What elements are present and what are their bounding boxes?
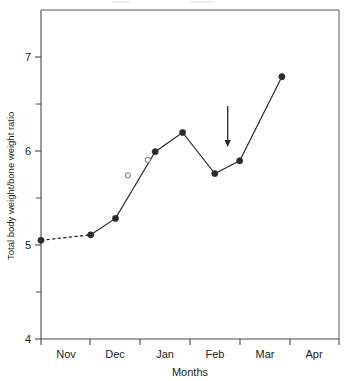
plot-frame [41, 10, 339, 339]
x-tick-label-apr: Apr [305, 348, 322, 360]
data-point [88, 232, 94, 238]
y-axis-title: Total body weight/bone weight ratio [5, 112, 16, 260]
y-tick-label-7: 7 [25, 51, 31, 63]
x-axis-title: Months [172, 366, 209, 378]
down-arrow-icon [225, 106, 231, 147]
data-point [112, 215, 118, 221]
y-tick-label-6: 6 [25, 145, 31, 157]
chart-figure: 7 6 5 4 Nov Dec Jan Feb Mar Apr Months T… [0, 0, 352, 381]
x-tick-label-mar: Mar [256, 348, 275, 360]
data-point [180, 129, 186, 135]
series-segment-dashed [41, 235, 91, 241]
y-tick-label-4: 4 [25, 333, 31, 345]
x-tick-label-nov: Nov [56, 348, 76, 360]
data-point [279, 74, 285, 80]
series-segment-solid [91, 77, 282, 235]
y-tick-label-5: 5 [25, 239, 31, 251]
data-point [212, 171, 218, 177]
x-axis-ticks [41, 339, 339, 345]
data-point-open [145, 157, 150, 162]
chart-canvas: 7 6 5 4 Nov Dec Jan Feb Mar Apr Months T… [0, 0, 352, 381]
data-point [38, 237, 44, 243]
data-point [152, 149, 158, 155]
x-tick-label-dec: Dec [105, 348, 125, 360]
data-point-markers-filled [38, 74, 285, 244]
y-axis-ticks-minor [36, 104, 41, 292]
x-tick-label-jan: Jan [156, 348, 174, 360]
data-point [237, 158, 243, 164]
data-point-markers-open [125, 157, 150, 178]
x-tick-label-feb: Feb [206, 348, 225, 360]
data-point-open [125, 173, 130, 178]
